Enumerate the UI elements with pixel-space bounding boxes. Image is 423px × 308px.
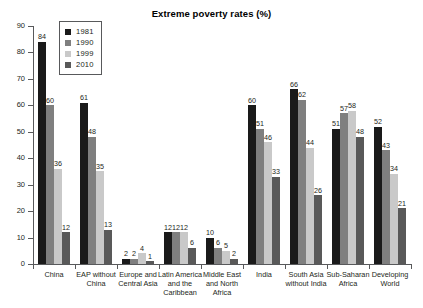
bar[interactable] <box>214 248 221 264</box>
bar-value-label: 34 <box>387 165 400 172</box>
bar[interactable] <box>54 169 61 264</box>
bar-group: 66624426 <box>285 26 327 264</box>
bar[interactable] <box>164 232 171 264</box>
bar-value-label: 35 <box>93 163 106 170</box>
legend-item-label: 2010 <box>76 61 94 69</box>
category-label-line: Africa <box>197 288 247 297</box>
legend-item-1999[interactable]: 1999 <box>65 48 94 59</box>
bar-value-label: 62 <box>295 91 308 98</box>
bar[interactable] <box>96 171 103 264</box>
bar-value-label: 84 <box>35 33 48 40</box>
y-axis-tick-label: 90 <box>3 22 25 30</box>
bar-value-label: 36 <box>51 160 64 167</box>
x-axis-tick <box>411 265 412 269</box>
bar-value-label: 51 <box>253 120 266 127</box>
category-label-line: Developing <box>365 270 415 279</box>
bar-value-label: 1 <box>143 253 156 260</box>
bar[interactable] <box>130 259 137 264</box>
chart-container: Extreme poverty rates (%) 01020304050607… <box>0 0 423 308</box>
bar[interactable] <box>306 148 313 264</box>
legend-item-label: 1999 <box>76 50 94 58</box>
x-axis-tick <box>201 265 202 269</box>
bar[interactable] <box>104 230 111 264</box>
bar[interactable] <box>188 248 195 264</box>
legend-swatch-icon <box>65 62 71 68</box>
bar[interactable] <box>38 42 45 264</box>
legend-swatch-icon <box>65 29 71 35</box>
y-axis-tick-label: 20 <box>3 207 25 215</box>
chart-title: Extreme poverty rates (%) <box>0 8 423 19</box>
bar-value-label: 12 <box>177 224 190 231</box>
bar-value-label: 48 <box>85 128 98 135</box>
bar[interactable] <box>264 142 271 264</box>
bar[interactable] <box>180 232 187 264</box>
bar-value-label: 58 <box>345 102 358 109</box>
x-axis-category-label: DevelopingWorld <box>365 270 415 288</box>
bar[interactable] <box>314 195 321 264</box>
legend-swatch-icon <box>65 40 71 46</box>
bar-group: 1212126 <box>159 26 201 264</box>
bar-group: 52433421 <box>369 26 411 264</box>
legend-item-2010[interactable]: 2010 <box>65 59 94 70</box>
bar-value-label: 60 <box>245 97 258 104</box>
x-axis-line <box>33 264 412 265</box>
bar-value-label: 52 <box>371 118 384 125</box>
y-axis-tick-label: 60 <box>3 101 25 109</box>
x-axis-tick <box>159 265 160 269</box>
legend-item-label: 1981 <box>76 28 94 36</box>
bar-value-label: 44 <box>303 139 316 146</box>
x-axis-tick <box>369 265 370 269</box>
legend-item-1990[interactable]: 1990 <box>65 37 94 48</box>
legend-item-label: 1990 <box>76 39 94 47</box>
bar[interactable] <box>356 137 363 264</box>
bar[interactable] <box>146 261 153 264</box>
y-axis-tick-label: 70 <box>3 75 25 83</box>
x-axis-tick <box>285 265 286 269</box>
bar[interactable] <box>290 89 297 264</box>
bar[interactable] <box>248 105 255 264</box>
bar[interactable] <box>390 174 397 264</box>
bar[interactable] <box>340 113 347 264</box>
bar-value-label: 12 <box>59 224 72 231</box>
y-axis-tick-label: 10 <box>3 234 25 242</box>
bar[interactable] <box>398 208 405 264</box>
bar[interactable] <box>122 259 129 264</box>
y-axis-tick-label: 80 <box>3 48 25 56</box>
bar[interactable] <box>256 129 263 264</box>
bar[interactable] <box>230 259 237 264</box>
bar[interactable] <box>272 177 279 264</box>
bar-value-label: 21 <box>395 200 408 207</box>
bar[interactable] <box>298 100 305 264</box>
bar-value-label: 33 <box>269 168 282 175</box>
bar-group: 51575848 <box>327 26 369 264</box>
bar-group: 60514633 <box>243 26 285 264</box>
bar[interactable] <box>80 103 87 264</box>
bar-group: 2241 <box>117 26 159 264</box>
x-axis-tick <box>117 265 118 269</box>
legend-item-1981[interactable]: 1981 <box>65 26 94 37</box>
bar-value-label: 46 <box>261 134 274 141</box>
bar-value-label: 6 <box>185 239 198 246</box>
bar-value-label: 26 <box>311 187 324 194</box>
x-axis-tick <box>243 265 244 269</box>
bar-value-label: 13 <box>101 221 114 228</box>
bar[interactable] <box>88 137 95 264</box>
bar-value-label: 43 <box>379 142 392 149</box>
bar[interactable] <box>332 129 339 264</box>
category-label-line: World <box>365 279 415 288</box>
bar[interactable] <box>62 232 69 264</box>
bar-value-label: 5 <box>219 242 232 249</box>
bar-value-label: 10 <box>203 229 216 236</box>
bar-value-label: 2 <box>227 250 240 257</box>
bar-value-label: 61 <box>77 94 90 101</box>
bar[interactable] <box>46 105 53 264</box>
bar-value-label: 66 <box>287 81 300 88</box>
x-axis-tick <box>327 265 328 269</box>
legend-swatch-icon <box>65 51 71 57</box>
bar[interactable] <box>172 232 179 264</box>
bar-value-label: 60 <box>43 97 56 104</box>
y-axis-tick-label: 30 <box>3 181 25 189</box>
y-axis-tick-label: 40 <box>3 154 25 162</box>
y-axis-tick-label: 50 <box>3 128 25 136</box>
bar-value-label: 48 <box>353 128 366 135</box>
